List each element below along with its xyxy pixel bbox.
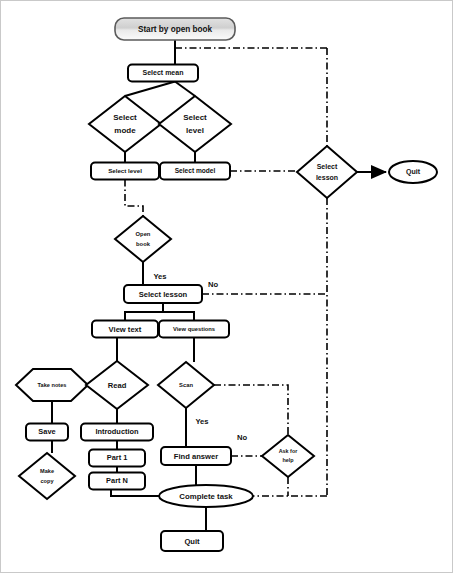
flowchart-svg: Start by open book Select mean Select mo…	[0, 0, 453, 573]
edge-select-mean-to-select-level	[175, 82, 195, 97]
node-complete-task[interactable]: Complete task	[159, 485, 253, 507]
edge-select-mean-to-select-mode	[125, 82, 175, 97]
node-select-lesson-decision[interactable]: Select lesson	[297, 146, 357, 198]
select-mode-label-line1: Select	[113, 113, 137, 122]
edge-scan-to-ask-for-help	[214, 385, 288, 435]
node-save[interactable]: Save	[26, 424, 68, 441]
select-lesson-decision-label-line1: Select	[317, 163, 338, 170]
view-questions-label: View questions	[173, 326, 215, 332]
open-book-label-line1: Open	[136, 231, 151, 237]
take-notes-label: Take notes	[38, 382, 67, 388]
node-introduction[interactable]: Introduction	[81, 424, 153, 441]
edge-label-yes-scan: Yes	[195, 417, 208, 426]
quit-right-label: Quit	[406, 168, 421, 176]
ask-for-help-label-line1: Ask for	[279, 448, 298, 454]
node-select-model-box[interactable]: Select model	[160, 163, 230, 180]
select-model-box-label: Select model	[175, 167, 216, 174]
start-node-label: Start by open book	[138, 25, 213, 34]
node-read-decision[interactable]: Read	[86, 361, 148, 409]
flowchart-canvas: Start by open book Select mean Select mo…	[0, 0, 453, 573]
node-take-notes[interactable]: Take notes	[16, 369, 88, 401]
select-lesson-decision-label-line2: lesson	[316, 174, 338, 181]
ask-for-help-label-line2: help	[282, 457, 294, 463]
open-book-shape	[115, 216, 171, 262]
node-scan-decision[interactable]: Scan	[158, 362, 214, 408]
part-1-label: Part 1	[107, 453, 128, 462]
node-select-mean[interactable]: Select mean	[128, 65, 198, 82]
complete-task-label: Complete task	[179, 492, 233, 501]
view-text-label: View text	[109, 325, 142, 334]
node-select-mode-decision[interactable]: Select mode	[89, 96, 161, 152]
edge-select-lesson-to-view-text	[125, 303, 163, 321]
node-start-by-open-book[interactable]: Start by open book	[115, 18, 235, 40]
edge-select-level-to-open-book	[125, 180, 143, 217]
select-level-shape	[159, 96, 231, 152]
part-n-label: Part N	[106, 476, 128, 485]
read-label: Read	[108, 381, 127, 390]
node-select-level-decision[interactable]: Select level	[159, 96, 231, 152]
introduction-label: Introduction	[95, 427, 139, 436]
node-quit-bottom[interactable]: Quit	[161, 531, 223, 551]
select-level-box-label: Select level	[108, 167, 142, 174]
find-answer-label: Find answer	[174, 452, 218, 461]
make-copy-label-line1: Make	[40, 468, 54, 474]
make-copy-label-line2: copy	[40, 478, 54, 484]
make-copy-shape	[19, 453, 75, 499]
select-mode-shape	[89, 96, 161, 152]
node-part-n[interactable]: Part N	[89, 473, 145, 490]
node-select-level-box[interactable]: Select level	[91, 163, 159, 180]
select-mode-label-line2: mode	[114, 126, 136, 135]
edge-label-yes-open-book: Yes	[153, 272, 166, 281]
scan-label: Scan	[179, 382, 193, 388]
select-mean-label: Select mean	[143, 69, 184, 76]
node-view-questions[interactable]: View questions	[159, 321, 229, 338]
edge-label-no-select-lesson: No	[208, 280, 218, 289]
select-level-label-line2: level	[186, 126, 204, 135]
node-quit-right[interactable]: Quit	[389, 161, 437, 183]
quit-bottom-label: Quit	[184, 537, 200, 546]
node-part-1[interactable]: Part 1	[89, 450, 145, 467]
node-open-book-decision[interactable]: Open book	[115, 216, 171, 262]
open-book-label-line2: book	[136, 241, 151, 247]
select-level-label-line1: Select	[183, 113, 207, 122]
edge-label-no-find-answer: No	[237, 433, 247, 442]
node-ask-for-help-decision[interactable]: Ask for help	[262, 435, 314, 477]
node-select-lesson-box[interactable]: Select lesson	[124, 285, 202, 303]
select-lesson-box-label: Select lesson	[139, 290, 188, 299]
edge-select-lesson-to-view-questions	[163, 303, 194, 321]
node-view-text[interactable]: View text	[92, 321, 158, 338]
ask-for-help-shape	[262, 435, 314, 477]
node-make-copy-decision[interactable]: Make copy	[19, 453, 75, 499]
select-lesson-decision-shape	[297, 146, 357, 198]
node-find-answer[interactable]: Find answer	[161, 447, 231, 465]
save-label: Save	[38, 427, 55, 436]
